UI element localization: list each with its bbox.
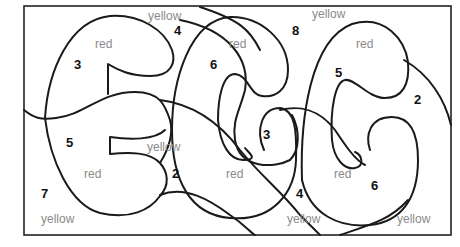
label-red: red: [229, 37, 246, 51]
letter-e-bottom-outline: [45, 118, 167, 215]
label-red: red: [356, 37, 373, 51]
label-yellow: yellow: [41, 212, 75, 226]
label-number: 2: [172, 166, 179, 181]
right-swoop-line: [404, 60, 451, 125]
label-number: 8: [292, 23, 299, 38]
label-number: 5: [335, 65, 342, 80]
color-by-number-sheet: yellow yellow red red red yellow red red…: [0, 0, 460, 247]
lower-left-swoop-line: [160, 192, 255, 235]
label-yellow: yellow: [148, 9, 182, 23]
label-red: red: [84, 167, 101, 181]
label-number: 3: [74, 57, 81, 72]
label-red: red: [95, 37, 112, 51]
label-red: red: [334, 167, 351, 181]
label-number: 3: [263, 127, 270, 142]
label-yellow: yellow: [312, 7, 346, 21]
label-yellow: yellow: [147, 140, 181, 154]
label-number: 4: [296, 186, 304, 201]
label-number: 4: [174, 23, 182, 38]
label-number: 7: [41, 186, 48, 201]
label-yellow: yellow: [397, 212, 431, 226]
label-yellow: yellow: [287, 212, 321, 226]
letter-g2-lower-bowl: [302, 117, 418, 225]
label-number: 6: [371, 178, 378, 193]
label-number: 5: [66, 135, 73, 150]
label-number: 6: [210, 57, 217, 72]
label-number: 2: [414, 92, 421, 107]
letter-e-top-outline: [45, 16, 173, 118]
label-red: red: [226, 167, 243, 181]
